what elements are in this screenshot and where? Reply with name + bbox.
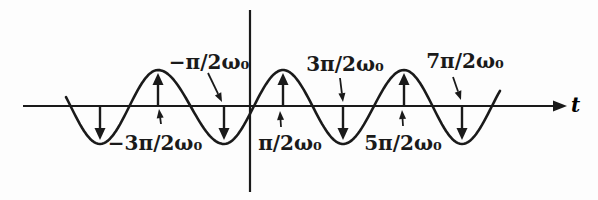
label-leader-arrow-head bbox=[399, 110, 406, 119]
annotation-label: −3π/2ω₀ bbox=[108, 131, 203, 155]
impulse-up-arrow-head bbox=[399, 73, 410, 85]
t-axis-label: t bbox=[571, 93, 581, 117]
annotation-label: 7π/2ω₀ bbox=[426, 49, 504, 73]
label-leader-arrow-shaft bbox=[208, 73, 218, 94]
waveform-figure: −π/2ω₀−3π/2ω₀π/2ω₀3π/2ω₀5π/2ω₀7π/2ω₀ t bbox=[0, 0, 598, 200]
label-leader-arrow-shaft bbox=[160, 118, 161, 124]
annotation-label: −π/2ω₀ bbox=[169, 50, 250, 74]
impulse-down-arrow-head bbox=[457, 128, 468, 140]
axis-group bbox=[23, 10, 567, 192]
annotation-labels: −π/2ω₀−3π/2ω₀π/2ω₀3π/2ω₀5π/2ω₀7π/2ω₀ bbox=[108, 49, 504, 155]
label-leader-arrow-head bbox=[157, 109, 164, 118]
impulse-up-arrow-head bbox=[278, 73, 289, 85]
label-leader-arrow-shaft bbox=[340, 78, 342, 93]
impulse-down-arrow-head bbox=[219, 128, 230, 140]
label-leader-arrow-head bbox=[338, 93, 345, 102]
label-leader-arrow-shaft bbox=[453, 77, 458, 91]
figure-canvas: −π/2ω₀−3π/2ω₀π/2ω₀3π/2ω₀5π/2ω₀7π/2ω₀ t bbox=[0, 0, 598, 200]
label-leader-arrow-head bbox=[215, 92, 222, 102]
impulse-down-arrow-head bbox=[338, 128, 349, 140]
annotation-label: 5π/2ω₀ bbox=[364, 131, 442, 155]
label-leader-arrow-head bbox=[455, 90, 462, 100]
annotation-label: π/2ω₀ bbox=[258, 131, 322, 155]
annotation-label: 3π/2ω₀ bbox=[306, 52, 384, 76]
t-axis-head bbox=[553, 101, 567, 112]
impulse-up-arrow-head bbox=[153, 73, 164, 85]
impulse-down-arrow-head bbox=[95, 128, 106, 140]
label-leader-arrow-head bbox=[277, 111, 284, 120]
